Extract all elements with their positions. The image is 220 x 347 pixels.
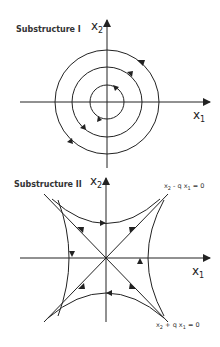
- arrow-icon: [129, 283, 136, 289]
- arrow-icon: [129, 227, 136, 233]
- arrow-icon: [100, 220, 106, 226]
- arrow-icon: [113, 85, 119, 91]
- arrow-icon: [106, 290, 112, 296]
- equation-bottom: x2 + q x1 = 0: [156, 321, 200, 330]
- phase-portraits-figure: [0, 0, 220, 347]
- x2-axis-label: x2: [90, 174, 102, 190]
- x1-axis-label: x1: [193, 108, 205, 124]
- substructure-2-title: Substructure II: [14, 180, 82, 189]
- substructure-1-diagram: [20, 20, 210, 168]
- substructure-2-diagram: [20, 178, 210, 322]
- arrow-icon: [137, 258, 143, 264]
- x2-axis-label: x2: [91, 19, 103, 35]
- x1-axis-label: x1: [192, 264, 204, 280]
- equation-top: x2 - q x1 = 0: [164, 182, 204, 191]
- substructure-1-title: Substructure I: [16, 25, 81, 34]
- arrow-icon: [69, 251, 75, 257]
